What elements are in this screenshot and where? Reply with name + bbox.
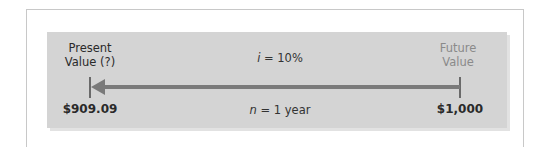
future-value-subtitle: Value (418, 55, 498, 69)
present-value-title: Present (50, 41, 130, 55)
period-label: n = 1 year (200, 103, 360, 117)
arrow-line (96, 85, 460, 89)
present-value-subtitle: Value (?) (50, 55, 130, 69)
period-value: = 1 year (257, 103, 311, 117)
interest-rate-label: i = 10% (200, 51, 360, 65)
future-value-label: Future Value (418, 41, 498, 69)
future-value-title: Future (418, 41, 498, 55)
present-value-amount: $909.09 (45, 102, 135, 116)
arrow-left-icon (91, 79, 105, 95)
present-value-label: Present Value (?) (50, 41, 130, 69)
future-value-amount: $1,000 (415, 102, 505, 116)
period-symbol: n (250, 103, 257, 117)
rate-value: = 10% (260, 51, 303, 65)
